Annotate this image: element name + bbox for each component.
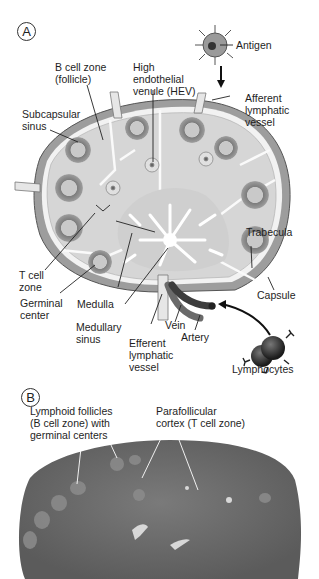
- label-lymphoid-follicles: Lymphoid follicles (B cell zone) with ge…: [30, 405, 112, 441]
- label-lymphocytes: Lymphocytes: [232, 363, 293, 375]
- lymph-node-micrograph: [19, 430, 301, 579]
- label-artery: Artery: [181, 331, 209, 343]
- label-vein: Vein: [165, 319, 185, 331]
- label-antigen: Antigen: [236, 39, 272, 51]
- label-t-cell-zone: T cell zone: [19, 269, 44, 293]
- label-trabecula: Trabecula: [246, 226, 292, 238]
- antigen-presenting-cell: [195, 25, 233, 88]
- label-efferent-lymphatic-vessel: Efferent lymphatic vessel: [129, 337, 173, 373]
- label-parafollicular-cortex: Parafollicular cortex (T cell zone): [156, 405, 245, 429]
- label-medulla: Medulla: [77, 298, 114, 310]
- label-b-cell-zone: B cell zone (follicle): [55, 61, 106, 85]
- label-medullary-sinus: Medullary sinus: [76, 321, 122, 345]
- label-capsule: Capsule: [257, 289, 296, 301]
- label-hev: High endothelial venule (HEV): [133, 61, 195, 97]
- label-germinal-center: Germinal center: [20, 297, 63, 321]
- label-subcapsular-sinus: Subcapsular sinus: [22, 108, 80, 132]
- label-afferent-lymphatic-vessel: Afferent lymphatic vessel: [245, 92, 289, 128]
